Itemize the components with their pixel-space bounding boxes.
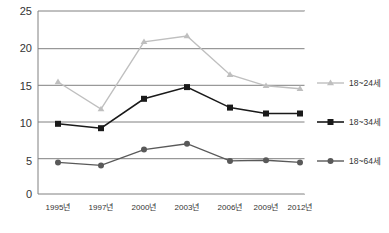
series-18-64 [55,141,303,169]
legend-item-18-34: 18~34세 [349,117,381,127]
x-axis-tick-1995: 1995년 [35,203,81,212]
x-axis-tick-2012: 2012년 [277,203,323,212]
plot-area [0,0,389,233]
line-chart: 25 20 15 10 5 0 [0,0,389,233]
legend-markers [317,80,344,164]
x-axis-tick-1997: 1997년 [78,203,124,212]
legend-item-18-64: 18~64세 [349,156,381,166]
legend-item-18-24: 18~24세 [349,78,381,88]
x-axis-tick-2003: 2003년 [164,203,210,212]
x-axis-tick-2000: 2000년 [121,203,167,212]
series-18-34 [55,84,303,131]
series-18-24 [55,33,304,112]
